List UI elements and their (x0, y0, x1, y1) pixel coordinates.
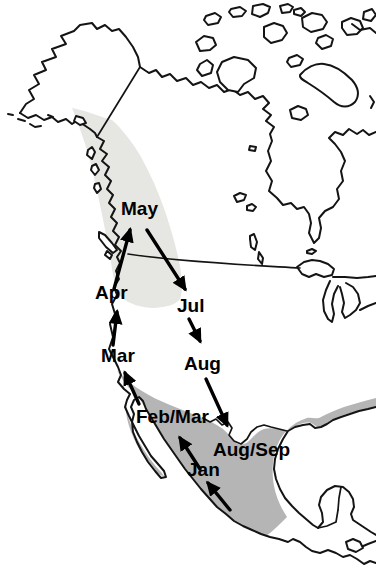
border-yucatan-internal (338, 487, 341, 510)
map-canvas: May Apr Jul Mar Aug Feb/Mar Aug/Sep Jan (0, 0, 376, 576)
island-baffin (300, 64, 358, 107)
island (197, 60, 213, 76)
island-haida-gwaii (87, 147, 95, 159)
island (252, 4, 270, 17)
aleutian-islands (8, 114, 53, 127)
coastline-north-mainland (20, 23, 376, 243)
coastline-caribbean-partial (361, 541, 376, 547)
island (363, 9, 376, 21)
island (294, 8, 305, 16)
island (204, 13, 221, 25)
island-devon (302, 13, 327, 32)
lake-erie-partial (360, 303, 376, 310)
arctic-islands (196, 4, 376, 120)
lake-michigan (323, 281, 338, 322)
island-southampton (290, 106, 308, 120)
month-label-apr: Apr (95, 282, 128, 303)
lake (247, 204, 256, 211)
migration-map: May Apr Jul Mar Aug Feb/Mar Aug/Sep Jan (0, 0, 376, 576)
month-label-mar: Mar (101, 345, 135, 366)
honduras-lake-outline (346, 539, 363, 552)
month-label-may: May (121, 198, 158, 219)
lake-huron (340, 283, 360, 318)
lake (258, 252, 263, 264)
coastline-gulf-yucatan (274, 407, 376, 535)
month-label-aug: Aug (184, 353, 221, 374)
month-label-feb-mar: Feb/Mar (136, 406, 209, 427)
lake-winnipeg (250, 234, 257, 250)
month-label-jan: Jan (187, 459, 220, 480)
island-right-edge-partial (370, 96, 374, 108)
migration-arrow-jul-aug (189, 319, 200, 341)
island-in-superior (307, 249, 316, 254)
lake (249, 146, 256, 151)
island (287, 55, 303, 67)
island (264, 23, 287, 43)
island (280, 4, 293, 13)
island (229, 7, 246, 17)
month-label-jul: Jul (177, 295, 204, 316)
lake-superior (297, 260, 334, 277)
island (342, 18, 363, 35)
island-victoria (217, 57, 256, 92)
island (196, 36, 216, 51)
lake (234, 193, 246, 202)
interior-lakes (234, 146, 376, 322)
lake-huron-north-shore (333, 276, 376, 278)
month-label-aug-sep: Aug/Sep (213, 439, 290, 460)
island (316, 35, 333, 49)
migration-arrow-aug-augsep (206, 379, 227, 425)
